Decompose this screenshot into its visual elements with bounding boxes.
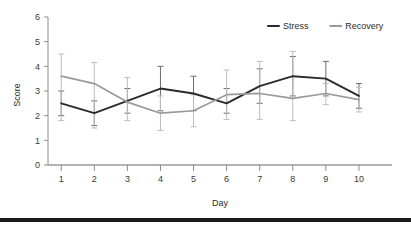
legend-label-stress: Stress [283, 21, 309, 31]
x-tick-label: 6 [224, 174, 229, 184]
x-tick-label: 5 [191, 174, 196, 184]
y-tick-label: 3 [35, 86, 40, 96]
axis-group [44, 17, 392, 171]
x-axis-ticks [61, 165, 359, 171]
chart-figure: 0123456 12345678910 Score Day StressReco… [0, 0, 411, 225]
y-tick-label: 5 [35, 37, 40, 47]
x-tick-label: 8 [290, 174, 295, 184]
x-tick-label: 3 [125, 174, 130, 184]
legend-label-recovery: Recovery [345, 21, 384, 31]
x-tick-label: 2 [92, 174, 97, 184]
x-axis-tick-labels: 12345678910 [59, 174, 364, 184]
y-axis-ticks [44, 17, 48, 165]
x-tick-label: 9 [323, 174, 328, 184]
data-series-group [61, 76, 359, 113]
x-tick-label: 4 [158, 174, 163, 184]
y-tick-label: 2 [35, 111, 40, 121]
chart-legend: StressRecovery [268, 21, 384, 31]
y-tick-label: 4 [35, 62, 40, 72]
y-axis-tick-labels: 0123456 [35, 12, 40, 170]
y-tick-label: 0 [35, 160, 40, 170]
series-line-recovery [61, 76, 359, 113]
x-tick-label: 7 [257, 174, 262, 184]
error-bars-group [58, 52, 362, 131]
line-chart-plot: 0123456 12345678910 Score Day StressReco… [0, 0, 411, 225]
y-tick-label: 1 [35, 136, 40, 146]
x-tick-label: 1 [59, 174, 64, 184]
bottom-bar [0, 218, 411, 222]
x-axis-title: Day [212, 198, 229, 208]
y-axis-title: Score [12, 83, 22, 107]
x-tick-label: 10 [354, 174, 364, 184]
y-tick-label: 6 [35, 12, 40, 22]
